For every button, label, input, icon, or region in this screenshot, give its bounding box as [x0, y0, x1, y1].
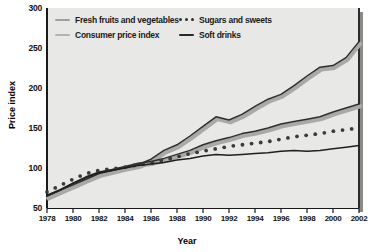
legend-item-fresh-fruits-and-vegetables: Fresh fruits and vegetables [55, 15, 179, 25]
legend-item-sugars-and-sweets: Sugars and sweets [179, 15, 299, 25]
y-tick-label: 50 [16, 203, 42, 213]
legend-label: Fresh fruits and vegetables [75, 15, 179, 25]
legend-label: Consumer price index [75, 30, 159, 40]
x-tick-label: 2002 [344, 214, 374, 223]
chart-legend: Fresh fruits and vegetables Sugars and s… [55, 12, 305, 42]
legend-label: Sugars and sweets [199, 15, 272, 25]
series-line-soft-drinks [47, 146, 359, 196]
legend-item-consumer-price-index: Consumer price index [55, 30, 179, 40]
legend-swatch-dots-icon [179, 16, 194, 24]
series-dotted-sugars-and-sweets [45, 127, 353, 194]
y-tick-label: 100 [16, 163, 42, 173]
series-halo [48, 106, 360, 198]
legend-swatch-line-icon [179, 31, 194, 39]
legend-item-soft-drinks: Soft drinks [179, 30, 299, 40]
y-tick-label: 200 [16, 83, 42, 93]
legend-swatch-line-icon [55, 31, 70, 39]
y-tick-label: 150 [16, 123, 42, 133]
x-axis-title: Year [0, 236, 374, 246]
y-tick-label: 300 [16, 3, 42, 13]
y-axis-title: Price index [7, 65, 17, 145]
legend-label: Soft drinks [199, 30, 241, 40]
chart-figure: 50100150200250300 1978198019821984198619… [0, 0, 374, 252]
legend-swatch-line-icon [55, 16, 70, 24]
y-tick-label: 250 [16, 43, 42, 53]
series-line-consumer-price-index [47, 104, 359, 196]
